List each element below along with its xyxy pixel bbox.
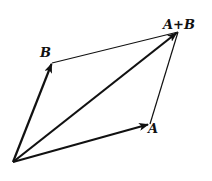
label-a: A [146,121,158,136]
vector-a-arrow [13,125,148,163]
vector-addition-diagram: A B A+B [0,0,212,181]
label-b: B [39,45,51,60]
label-sum: A+B [161,17,195,32]
side-a-to-sum [150,32,178,124]
